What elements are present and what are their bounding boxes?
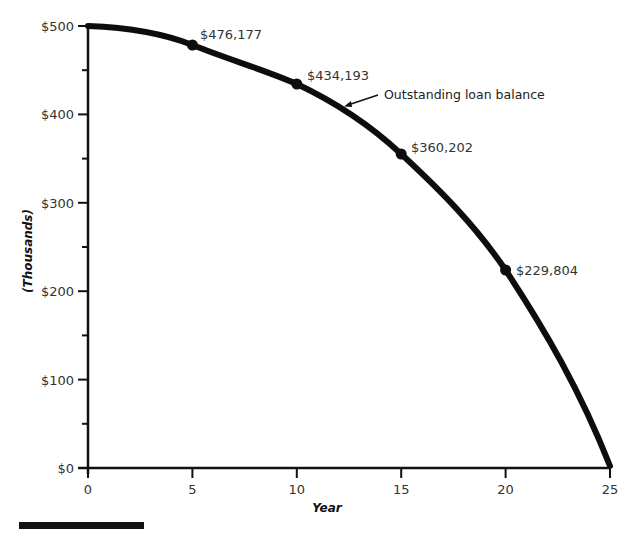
y-tick-label: $200 bbox=[41, 284, 74, 299]
y-axis-title: (Thousands) bbox=[21, 209, 35, 293]
y-tick-label: $0 bbox=[57, 461, 74, 476]
y-tick-label: $400 bbox=[41, 107, 74, 122]
x-axis-title: Year bbox=[312, 501, 342, 515]
x-tick-label: 15 bbox=[393, 482, 410, 497]
x-tick-label: 5 bbox=[188, 482, 196, 497]
arrowhead-icon bbox=[344, 101, 352, 107]
annotation-label: Outstanding loan balance bbox=[384, 87, 545, 102]
x-tick-label: 0 bbox=[84, 482, 92, 497]
y-ticks bbox=[78, 26, 88, 468]
x-ticks bbox=[88, 468, 610, 478]
decorative-rule bbox=[19, 522, 144, 529]
data-point bbox=[291, 79, 302, 90]
data-point bbox=[396, 149, 407, 160]
annotation-arrow bbox=[348, 95, 378, 105]
x-tick-labels: 0 5 10 15 20 25 bbox=[84, 482, 618, 497]
y-tick-labels: $0 $100 $200 $300 $400 $500 bbox=[41, 19, 74, 476]
data-point bbox=[187, 40, 198, 51]
y-tick-label: $300 bbox=[41, 196, 74, 211]
curve-annotation: Outstanding loan balance bbox=[344, 87, 545, 107]
point-label: $434,193 bbox=[307, 68, 369, 83]
x-tick-label: 10 bbox=[289, 482, 306, 497]
y-tick-label: $500 bbox=[41, 19, 74, 34]
point-label: $229,804 bbox=[516, 263, 578, 278]
data-point bbox=[500, 265, 511, 276]
y-tick-label: $100 bbox=[41, 373, 74, 388]
x-tick-label: 25 bbox=[602, 482, 619, 497]
point-label: $476,177 bbox=[200, 27, 262, 42]
loan-balance-chart: $0 $100 $200 $300 $400 $500 0 5 10 15 20… bbox=[0, 0, 637, 539]
point-label: $360,202 bbox=[411, 140, 473, 155]
x-tick-label: 20 bbox=[497, 482, 514, 497]
